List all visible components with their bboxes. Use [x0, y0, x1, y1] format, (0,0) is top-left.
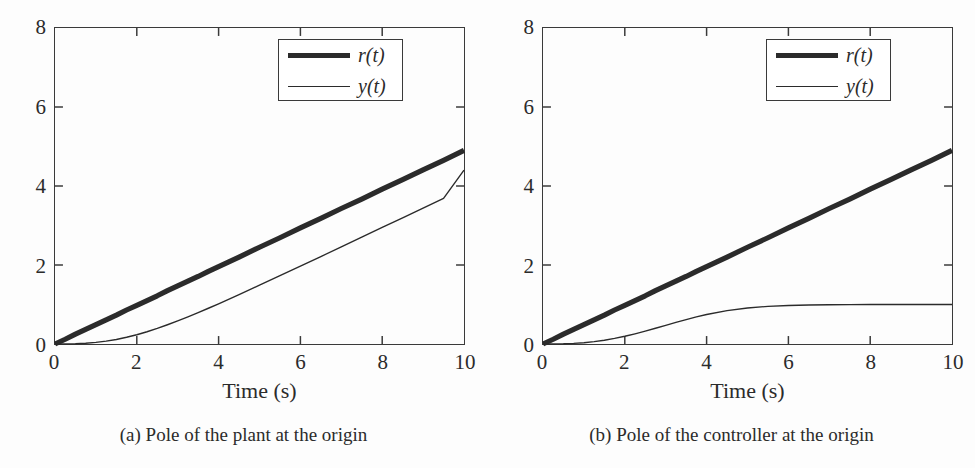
x-tick-label: 6 — [295, 352, 306, 373]
x-axis-tick-labels-b: 0 2 4 6 8 10 — [542, 352, 953, 378]
legend-label-r: r(t) — [846, 44, 873, 67]
plot-area-b: r(t) y(t) — [542, 27, 953, 345]
x-tick-label: 2 — [619, 352, 630, 373]
x-tick-label: 0 — [537, 352, 548, 373]
legend-a: r(t) y(t) — [278, 39, 403, 101]
legend-swatch-thin-icon — [776, 86, 838, 87]
legend-label-r: r(t) — [358, 44, 385, 67]
y-tick-label: 4 — [524, 176, 535, 197]
y-tick-label: 6 — [524, 96, 535, 117]
legend-label-y: y(t) — [358, 75, 386, 98]
y-tick-label: 0 — [36, 335, 47, 356]
y-axis-tick-labels-a: 8 6 4 2 0 — [4, 27, 46, 345]
legend-entry-r-a: r(t) — [279, 40, 402, 71]
x-tick-label: 4 — [701, 352, 712, 373]
y-tick-label: 4 — [36, 176, 47, 197]
legend-label-y: y(t) — [846, 75, 874, 98]
x-axis-tick-labels-a: 0 2 4 6 8 10 — [54, 352, 465, 378]
series-line-rt — [55, 150, 464, 344]
series-line-rt — [543, 150, 952, 344]
panel-b: 8 6 4 2 0 — [488, 0, 975, 468]
x-tick-label: 4 — [213, 352, 224, 373]
legend-swatch-thick-icon — [776, 53, 838, 58]
x-tick-label: 10 — [455, 352, 476, 373]
y-tick-label: 0 — [524, 335, 535, 356]
legend-entry-r-b: r(t) — [767, 40, 890, 71]
x-axis-label-a: Time (s) — [54, 378, 465, 404]
figure-container: 8 6 4 2 0 — [0, 0, 975, 468]
panel-caption-a: (a) Pole of the plant at the origin — [20, 424, 467, 446]
plot-area-a: r(t) y(t) — [54, 27, 465, 345]
legend-swatch-thin-icon — [288, 86, 350, 87]
series-line-yt — [543, 305, 952, 345]
y-tick-label: 2 — [36, 255, 47, 276]
panel-a: 8 6 4 2 0 — [0, 0, 487, 468]
legend-swatch-thick-icon — [288, 53, 350, 58]
x-tick-label: 0 — [49, 352, 60, 373]
legend-b: r(t) y(t) — [766, 39, 891, 101]
x-tick-label: 2 — [131, 352, 142, 373]
y-tick-label: 6 — [36, 96, 47, 117]
y-axis-tick-labels-b: 8 6 4 2 0 — [492, 27, 534, 345]
x-axis-label-b: Time (s) — [542, 378, 953, 404]
legend-entry-y-a: y(t) — [279, 71, 402, 102]
x-tick-label: 10 — [943, 352, 964, 373]
legend-entry-y-b: y(t) — [767, 71, 890, 102]
y-tick-label: 8 — [524, 17, 535, 38]
x-tick-label: 8 — [378, 352, 389, 373]
x-tick-label: 8 — [866, 352, 877, 373]
y-tick-label: 2 — [524, 255, 535, 276]
x-tick-label: 6 — [783, 352, 794, 373]
y-tick-label: 8 — [36, 17, 47, 38]
panel-caption-b: (b) Pole of the controller at the origin — [508, 424, 955, 446]
